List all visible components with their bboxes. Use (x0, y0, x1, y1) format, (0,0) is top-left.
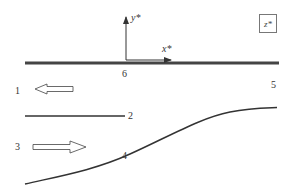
point-label-6: 6 (122, 69, 127, 79)
point-label-2: 2 (128, 111, 133, 121)
y-axis-label: y* (131, 13, 140, 23)
diagram-canvas (0, 0, 289, 195)
point-label-4: 4 (122, 151, 127, 161)
z-axis-box: z* (259, 14, 277, 33)
right-flow-arrow-icon (33, 141, 86, 153)
z-axis-label: z* (264, 19, 272, 29)
point-label-3: 3 (15, 142, 20, 152)
left-flow-arrow-icon (35, 84, 73, 94)
point-label-5: 5 (271, 80, 276, 90)
x-axis-label: x* (162, 44, 171, 54)
point-label-1: 1 (15, 86, 20, 96)
